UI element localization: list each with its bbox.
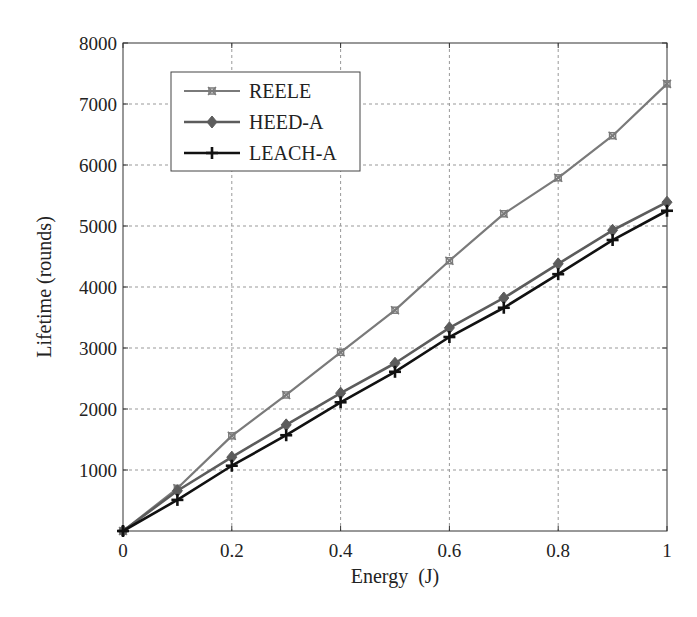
y-axis-label: Lifetime (rounds) (33, 216, 56, 358)
legend: REELEHEED-ALEACH-A (171, 72, 360, 171)
data-point-marker (445, 257, 453, 265)
y-tick-label: 4000 (79, 277, 117, 298)
data-point-marker (208, 87, 216, 95)
y-tick-label: 6000 (79, 155, 117, 176)
data-point-marker (663, 80, 671, 88)
y-tick-label: 2000 (79, 399, 117, 420)
x-tick-label: 0.2 (220, 540, 244, 561)
y-tick-label: 5000 (79, 216, 117, 237)
data-point-marker (554, 174, 562, 182)
y-tick-label: 8000 (79, 33, 117, 54)
data-point-marker (281, 419, 291, 431)
line-chart: 00.20.40.60.8110002000300040005000600070… (0, 0, 697, 617)
data-point-marker (607, 234, 619, 246)
data-point-marker (500, 210, 508, 218)
data-point-marker (337, 348, 345, 356)
y-tick-label: 3000 (79, 338, 117, 359)
x-tick-label: 1 (662, 540, 672, 561)
data-point-marker (280, 429, 292, 441)
data-point-marker (609, 132, 617, 140)
x-tick-label: 0.6 (438, 540, 462, 561)
y-tick-label: 1000 (79, 460, 117, 481)
legend-label: LEACH-A (249, 142, 337, 164)
x-tick-label: 0.8 (546, 540, 570, 561)
x-tick-label: 0 (118, 540, 128, 561)
y-tick-label: 7000 (79, 94, 117, 115)
data-point-marker (171, 494, 183, 506)
data-point-marker (391, 306, 399, 314)
series-leach-a (117, 205, 673, 537)
data-point-marker (335, 396, 347, 408)
data-point-marker (282, 391, 290, 399)
x-tick-label: 0.4 (329, 540, 353, 561)
data-point-marker (553, 258, 563, 270)
legend-label: REELE (249, 80, 311, 102)
legend-label: HEED-A (249, 111, 324, 133)
data-point-marker (552, 268, 564, 280)
x-axis-label: Energy (J) (351, 565, 440, 588)
data-point-marker (228, 432, 236, 440)
data-point-marker (661, 205, 673, 217)
axis-ticks: 00.20.40.60.8110002000300040005000600070… (79, 33, 672, 561)
data-point-marker (498, 302, 510, 314)
